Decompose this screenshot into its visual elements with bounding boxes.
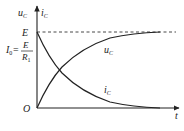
rc-charging-diagram: uC iC E I0 = E R1 O t uC iC (0, 0, 184, 131)
uc-curve (37, 32, 160, 108)
x-label-t: t (175, 110, 178, 121)
curve-label-ic: iC (104, 84, 112, 96)
label-e: E (21, 27, 28, 38)
frac-numerator: E (22, 40, 29, 50)
y-label-uc: uC (18, 7, 28, 19)
curve-label-uc: uC (104, 44, 114, 56)
frac-denominator: R1 (21, 52, 31, 63)
origin-label: O (23, 103, 30, 114)
ic-curve (37, 32, 160, 108)
label-i0: I0 (5, 44, 12, 56)
label-equals: = (13, 44, 19, 55)
y-label-ic: iC (41, 7, 49, 19)
